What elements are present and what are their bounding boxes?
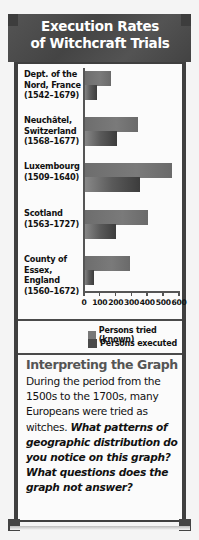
chart-title-line1: Execution Rates	[14, 18, 186, 35]
x-tick	[99, 291, 101, 296]
bar-persons-tried	[84, 256, 130, 271]
bar-persons-executed	[84, 177, 140, 192]
divider	[18, 353, 182, 355]
bar-persons-tried	[84, 117, 138, 132]
chart-panel: Dept. of the Nord, France (1542–1679) Ne…	[14, 62, 186, 522]
x-tick	[115, 291, 117, 296]
chart-panel-inner: Dept. of the Nord, France (1542–1679) Ne…	[18, 64, 182, 520]
x-tick-label: 0	[82, 298, 87, 307]
chart-title: Execution Rates of Witchcraft Trials	[14, 18, 186, 52]
category-label: Scotland (1563–1727)	[24, 208, 79, 229]
frame-shadow	[10, 526, 190, 530]
category-label-line: England	[24, 275, 79, 286]
category-label-line: (1560–1672)	[24, 286, 79, 297]
category-label-line: Luxembourg	[24, 161, 80, 172]
bar-chart: Dept. of the Nord, France (1542–1679) Ne…	[18, 64, 182, 319]
legend-swatch-executed	[88, 339, 97, 348]
bar-persons-executed	[84, 270, 94, 285]
category-label-line: Neuchâtel,	[24, 115, 79, 126]
category-label-line: Essex,	[24, 265, 79, 276]
x-tick	[131, 291, 133, 296]
category-label: County of Essex, England (1560–1672)	[24, 254, 79, 296]
x-tick	[83, 291, 85, 296]
bar-persons-tried	[84, 71, 111, 86]
interpreting-body: During the period from the 1500s to the …	[26, 374, 178, 496]
x-tick-label: 300	[124, 298, 139, 307]
legend-label-executed: Persons executed	[100, 339, 177, 348]
interpreting-heading: Interpreting the Graph	[26, 357, 178, 372]
x-tick-label: 400	[140, 298, 155, 307]
x-tick	[162, 291, 164, 296]
category-label-line: (1509–1640)	[24, 172, 80, 183]
category-label-line: Scotland	[24, 208, 79, 219]
category-label-line: (1542–1679)	[24, 90, 81, 101]
bar-persons-executed	[84, 85, 97, 100]
category-label-line: Dept. of the	[24, 69, 81, 80]
category-label: Dept. of the Nord, France (1542–1679)	[24, 69, 81, 101]
category-label-line: (1563–1727)	[24, 219, 79, 230]
bar-persons-executed	[84, 131, 117, 146]
y-axis	[83, 68, 85, 293]
category-label-line: Switzerland	[24, 126, 79, 137]
bar-persons-tried	[84, 210, 148, 225]
x-tick	[178, 291, 180, 296]
category-label-line: County of	[24, 254, 79, 265]
x-tick-label: 100	[92, 298, 107, 307]
x-tick-label: 600	[172, 298, 187, 307]
bar-persons-executed	[84, 224, 116, 239]
category-label: Neuchâtel, Switzerland (1568–1677)	[24, 115, 79, 147]
category-label-line: (1568–1677)	[24, 136, 79, 147]
x-tick-label: 200	[108, 298, 123, 307]
chart-title-line2: of Witchcraft Trials	[14, 35, 186, 52]
divider	[18, 319, 182, 321]
category-label-line: Nord, France	[24, 80, 81, 91]
x-tick	[146, 291, 148, 296]
category-label: Luxembourg (1509–1640)	[24, 161, 80, 182]
x-tick-label: 500	[156, 298, 171, 307]
bar-persons-tried	[84, 163, 172, 178]
legend-item-executed: Persons executed	[88, 339, 177, 348]
